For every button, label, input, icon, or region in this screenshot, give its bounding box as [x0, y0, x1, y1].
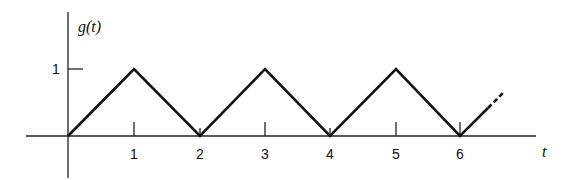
y-axis-label: g(t) [78, 18, 101, 36]
y-tick-label-1: 1 [52, 61, 60, 77]
x-axis-label: t [542, 143, 547, 160]
x-tick-label: 4 [326, 146, 334, 162]
x-ticks [134, 122, 460, 136]
x-tick-label: 3 [261, 146, 269, 162]
x-tick-label: 1 [130, 146, 138, 162]
x-tick-label: 5 [392, 146, 400, 162]
triangle-wave-diagram: g(t) 1 1 2 3 4 5 6 t [0, 0, 575, 180]
x-tick-label: 6 [456, 146, 464, 162]
continuation-dashes [488, 93, 503, 108]
g-of-t-curve [68, 69, 488, 136]
x-tick-label: 2 [196, 146, 204, 162]
